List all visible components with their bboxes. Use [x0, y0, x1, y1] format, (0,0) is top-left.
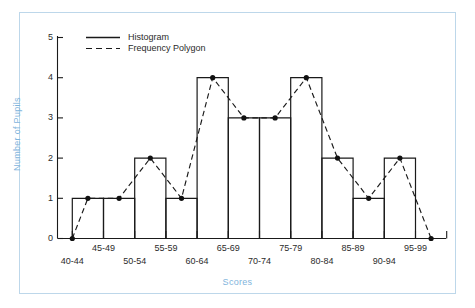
y-axis-title: Number of Pupils [12, 84, 22, 184]
legend-label-histogram: Histogram [128, 32, 169, 42]
histogram-bars [72, 78, 415, 239]
y-tick-label-0: 0 [39, 233, 53, 243]
y-tick-label-3: 3 [39, 112, 53, 122]
x-tick-label-80-84: 80-84 [299, 256, 345, 266]
y-tick-label-1: 1 [39, 193, 53, 203]
figure-container: Number of Pupils Scores 0 1 2 3 4 5 40-4… [0, 0, 475, 308]
legend-swatches [86, 38, 120, 49]
x-tick-label-55-59: 55-59 [143, 243, 189, 253]
legend-label-frequency-polygon: Frequency Polygon [128, 43, 206, 53]
x-tick-label-65-69: 65-69 [205, 243, 251, 253]
x-tick-label-50-54: 50-54 [112, 256, 158, 266]
x-tick-label-70-74: 70-74 [237, 256, 283, 266]
frequency-polygon-markers [70, 75, 434, 241]
x-axis-title: Scores [0, 277, 475, 287]
y-axis-ticks [58, 38, 64, 239]
x-tick-label-75-79: 75-79 [268, 243, 314, 253]
x-tick-label-40-44: 40-44 [49, 256, 95, 266]
x-tick-label-45-49: 45-49 [81, 243, 127, 253]
frequency-polygon-line [72, 78, 431, 239]
x-tick-label-60-64: 60-64 [174, 256, 220, 266]
x-tick-label-85-89: 85-89 [330, 243, 376, 253]
x-tick-label-90-94: 90-94 [361, 256, 407, 266]
y-tick-label-4: 4 [39, 72, 53, 82]
y-tick-label-5: 5 [39, 32, 53, 42]
y-tick-label-2: 2 [39, 153, 53, 163]
axis-lines [58, 36, 447, 239]
x-tick-label-95-99: 95-99 [393, 243, 439, 253]
